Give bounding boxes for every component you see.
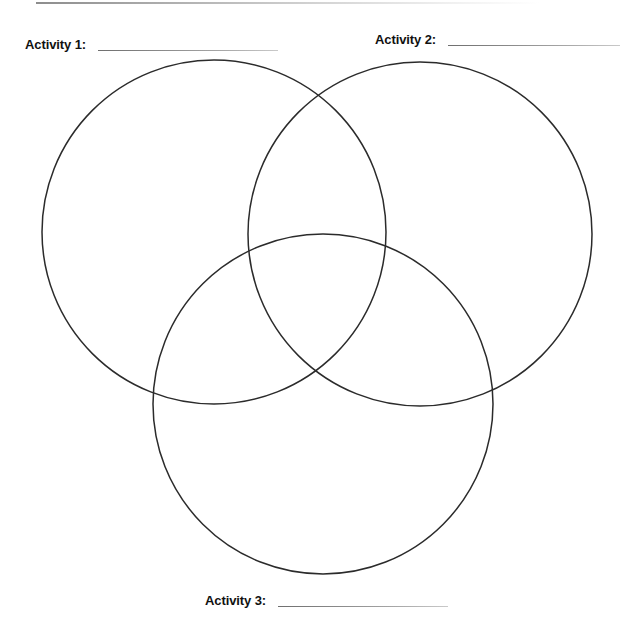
venn-circle-activity-2[interactable] — [248, 62, 592, 406]
venn-circles — [0, 0, 644, 632]
venn-circle-activity-1[interactable] — [42, 60, 386, 404]
venn-diagram-worksheet: Activity 1: Activity 2: Activity 3: — [0, 0, 644, 632]
